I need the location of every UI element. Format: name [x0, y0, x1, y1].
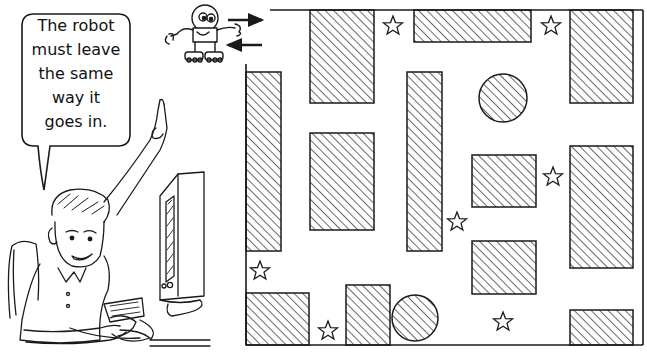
star-icon	[542, 16, 561, 34]
hatched-obstacle	[246, 72, 281, 251]
hatched-obstacle	[570, 310, 633, 345]
round-obstacle	[392, 295, 438, 341]
hatched-obstacle	[472, 155, 536, 207]
hatched-obstacle	[310, 133, 374, 230]
star-icon	[448, 212, 467, 230]
star-icon	[319, 321, 338, 339]
maze	[0, 0, 647, 353]
hatched-obstacle	[310, 10, 374, 103]
hatched-obstacle	[407, 72, 442, 251]
star-icon	[544, 167, 563, 185]
round-obstacle	[479, 74, 527, 122]
star-icon	[251, 261, 270, 279]
maze-blocks	[246, 10, 633, 345]
entry-exit-arrows	[228, 20, 262, 45]
star-icon	[384, 16, 403, 34]
puzzle-illustration: The robot must leave the same way it goe…	[0, 0, 647, 353]
hatched-obstacle	[570, 10, 633, 103]
hatched-obstacle	[472, 241, 536, 294]
hatched-obstacle	[414, 10, 531, 42]
hatched-obstacle	[246, 293, 309, 345]
star-icon	[494, 312, 513, 330]
hatched-obstacle	[570, 146, 633, 268]
hatched-obstacle	[346, 285, 390, 345]
